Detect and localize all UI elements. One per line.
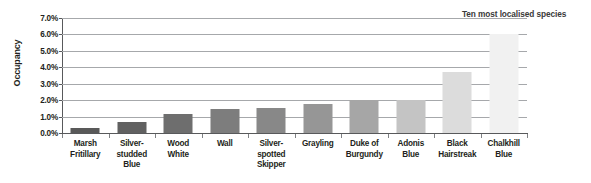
bar[interactable] (257, 108, 286, 133)
bar-slot (295, 18, 342, 133)
x-tick-mark (434, 134, 435, 138)
x-tick-mark (248, 134, 249, 138)
x-axis-label: Wall (202, 139, 249, 150)
x-tick-mark (295, 134, 296, 138)
y-tick-label: 2.0% (18, 96, 58, 105)
bar-slot (434, 18, 481, 133)
x-axis-label: Grayling (295, 139, 342, 150)
bar-slot (202, 18, 249, 133)
x-axis-label: Wood White (155, 139, 202, 160)
bar-slot (481, 18, 528, 133)
plot-area (62, 18, 527, 133)
x-tick-mark (527, 134, 528, 138)
y-tick-label: 7.0% (18, 14, 58, 23)
x-tick-mark (202, 134, 203, 138)
bar-slot (62, 18, 109, 133)
bar-slot (341, 18, 388, 133)
y-tick-label: 4.0% (18, 63, 58, 72)
bar[interactable] (164, 114, 193, 133)
x-tick-mark (109, 134, 110, 138)
x-axis-label: Duke of Burgundy (341, 139, 388, 160)
x-tick-mark (62, 134, 63, 138)
x-tick-mark (388, 134, 389, 138)
x-tick-mark (155, 134, 156, 138)
bar[interactable] (396, 100, 425, 133)
x-axis-label: Silver- spotted Skipper (248, 139, 295, 171)
bar-slot (248, 18, 295, 133)
y-tick-label: 1.0% (18, 112, 58, 121)
bar[interactable] (489, 34, 518, 133)
bar[interactable] (117, 122, 146, 133)
y-tick-label: 3.0% (18, 79, 58, 88)
y-tick-label: 6.0% (18, 30, 58, 39)
bar[interactable] (210, 109, 239, 133)
occupancy-bar-chart: Ten most localised species Occupancy 7.0… (0, 0, 591, 183)
bar[interactable] (443, 72, 472, 133)
x-tick-mark (481, 134, 482, 138)
bar[interactable] (303, 104, 332, 133)
x-axis-label: Marsh Fritillary (62, 139, 109, 160)
x-axis-label: Adonis Blue (388, 139, 435, 160)
bar-slot (109, 18, 156, 133)
y-tick-label: 0.0% (18, 129, 58, 138)
y-axis-tick-labels: 7.0%6.0%5.0%4.0%3.0%2.0%1.0%0.0% (18, 18, 58, 133)
bar[interactable] (350, 100, 379, 133)
x-tick-mark (341, 134, 342, 138)
x-axis-label: Silver- studded Blue (109, 139, 156, 171)
bars-layer (62, 18, 527, 133)
bar-slot (388, 18, 435, 133)
x-axis-label: Black Hairstreak (434, 139, 481, 160)
x-axis-label: Chalkhill Blue (481, 139, 528, 160)
bar-slot (155, 18, 202, 133)
y-tick-label: 5.0% (18, 46, 58, 55)
